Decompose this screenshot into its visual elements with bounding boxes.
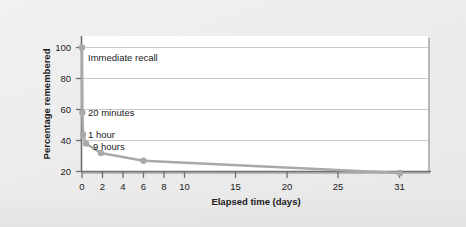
x-axis-title: Elapsed time (days)	[211, 196, 300, 207]
x-tick-label-0: 0	[79, 181, 84, 192]
annotation-immediate-recall: Immediate recall	[88, 52, 158, 63]
x-tick-label-2: 2	[100, 181, 105, 192]
y-axis-title: Percentage remembered	[41, 48, 52, 159]
x-tick-label-31: 31	[394, 181, 405, 192]
forgetting-curve-chart: 100 80 60 40 20 0 2 4 6 8 10 15 20 25 31…	[0, 0, 466, 227]
y-tick-label-60: 60	[60, 104, 71, 115]
y-tick-label-100: 100	[55, 42, 71, 53]
x-tick-label-15: 15	[230, 181, 241, 192]
annotation-9-hours: 9 hours	[93, 141, 125, 152]
x-tick-label-8: 8	[161, 181, 166, 192]
x-tick-label-10: 10	[179, 181, 190, 192]
y-tick-label-40: 40	[60, 135, 71, 146]
data-point-20-minutes	[79, 109, 85, 115]
y-tick-marks	[76, 48, 81, 172]
annotation-20-minutes: 20 minutes	[88, 107, 135, 118]
data-point-6-days	[140, 158, 146, 164]
x-tick-label-25: 25	[333, 181, 344, 192]
data-point-1-hour	[80, 131, 86, 137]
data-point-9-hours	[83, 140, 89, 146]
x-tick-label-6: 6	[141, 181, 146, 192]
y-tick-label-20: 20	[60, 166, 71, 177]
data-point-immediate-recall	[79, 44, 85, 50]
x-tick-label-20: 20	[282, 181, 293, 192]
y-tick-label-80: 80	[60, 73, 71, 84]
y-tick-labels: 100 80 60 40 20	[55, 42, 71, 177]
data-point-31-days	[397, 170, 403, 176]
figure-panel: 100 80 60 40 20 0 2 4 6 8 10 15 20 25 31…	[0, 0, 466, 227]
annotation-1-hour: 1 hour	[88, 129, 115, 140]
x-tick-labels: 0 2 4 6 8 10 15 20 25 31	[79, 181, 404, 192]
x-tick-label-4: 4	[120, 181, 125, 192]
